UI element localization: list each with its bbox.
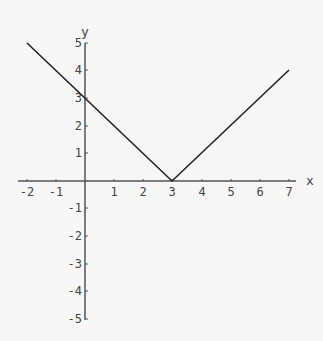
svg-text:4: 4 — [198, 185, 205, 199]
series-line-abs-x-minus-3 — [27, 43, 289, 181]
plot-area: -2 -1 1 2 3 4 5 6 7 5 4 3 2 1 -1 -2 -3 -… — [0, 0, 323, 341]
y-axis-label: y — [81, 24, 89, 39]
svg-text:6: 6 — [256, 185, 263, 199]
svg-text:1: 1 — [75, 146, 82, 160]
svg-text:-2: -2 — [20, 185, 34, 199]
svg-text:3: 3 — [168, 185, 175, 199]
svg-text:7: 7 — [285, 185, 292, 199]
svg-text:2: 2 — [75, 119, 82, 133]
svg-text:-5: -5 — [68, 312, 82, 326]
svg-text:-1: -1 — [68, 201, 82, 215]
svg-text:1: 1 — [110, 185, 117, 199]
svg-text:4: 4 — [75, 63, 82, 77]
svg-text:-3: -3 — [68, 257, 82, 271]
svg-text:2: 2 — [139, 185, 146, 199]
svg-text:3: 3 — [75, 91, 82, 105]
svg-text:5: 5 — [227, 185, 234, 199]
x-tick-labels: -2 -1 1 2 3 4 5 6 7 — [20, 185, 293, 199]
x-axis-label: x — [306, 173, 314, 188]
svg-text:-4: -4 — [68, 284, 82, 298]
svg-text:-2: -2 — [68, 229, 82, 243]
svg-text:-1: -1 — [49, 185, 63, 199]
